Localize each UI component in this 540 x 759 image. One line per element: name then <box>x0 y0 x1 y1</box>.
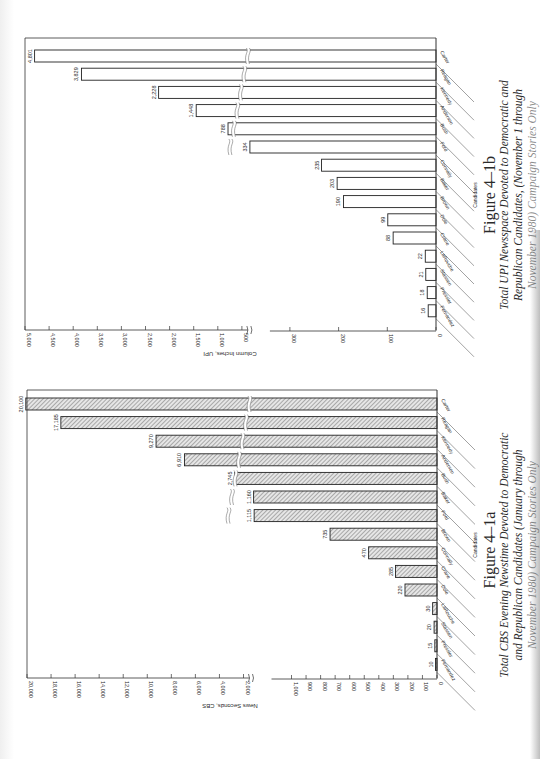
category-axis: CarterReaganKennedyAndersonBushBakerFord… <box>437 398 475 711</box>
data-label: 1,115 <box>246 509 252 522</box>
tick-label: 400 <box>380 682 386 691</box>
category-label: Reagan <box>440 416 454 434</box>
tick-label: 700 <box>336 682 342 691</box>
category-label: Dole <box>439 213 449 225</box>
tick-label: 3,500 <box>98 333 104 347</box>
data-label: 3,829 <box>73 67 79 81</box>
tick-label: 200 <box>340 334 346 343</box>
category-label: Brown <box>440 528 452 543</box>
category-label: Anderson <box>440 453 456 475</box>
figure-caption-line: November 1980) Campaign Stories Only <box>526 100 539 290</box>
category-label: Crane <box>440 565 452 580</box>
tick-label: 1,000 <box>219 333 225 347</box>
tick-label: 4,000 <box>220 681 226 695</box>
bar <box>426 268 436 280</box>
bar <box>81 68 436 80</box>
bar <box>159 86 436 98</box>
data-label: 20,100 <box>18 396 24 413</box>
tick-label: 14,000 <box>100 681 106 698</box>
bar <box>425 250 436 262</box>
bar <box>235 472 437 484</box>
data-label: 99 <box>380 217 386 223</box>
category-label: Bush <box>439 122 450 135</box>
bar <box>396 565 437 577</box>
tick-label: 500 <box>365 682 371 691</box>
tick-label: 18,000 <box>52 681 58 698</box>
bar <box>35 50 436 62</box>
tick-label: 300 <box>291 334 297 343</box>
data-label: 203 <box>329 179 335 188</box>
data-label: 2,745 <box>227 472 233 486</box>
data-label: 220 <box>397 585 403 594</box>
tick-label: 12,000 <box>124 681 130 698</box>
data-label: 9,270 <box>148 434 154 448</box>
tick-label: 2,000 <box>245 681 251 695</box>
category-label: Crane <box>439 232 451 247</box>
category-label: Baker <box>439 177 451 192</box>
data-label: 6,910 <box>176 453 182 467</box>
bar <box>405 584 437 596</box>
bar <box>343 196 436 208</box>
data-label: 21 <box>418 271 424 277</box>
tick-label: 100 <box>423 682 429 691</box>
bar <box>254 491 437 503</box>
bar <box>428 305 436 317</box>
tick-label: 4,500 <box>50 333 56 347</box>
tick-label: 200 <box>409 682 415 691</box>
figure-caption-line: Republican Candidates, (November 1 throu… <box>512 89 525 302</box>
page-figures: 4,8013,8292,2281,44878833423520319099882… <box>0 0 540 759</box>
category-label: Bush <box>440 472 451 485</box>
category-label: Anderson <box>439 104 455 126</box>
bar <box>26 398 437 410</box>
tick-label: 1,000 <box>293 682 299 696</box>
category-label: Reagan <box>439 68 453 86</box>
bar <box>61 417 437 429</box>
data-label: 15 <box>427 643 433 649</box>
category-label: Connally <box>439 159 454 179</box>
tick-label: 2,000 <box>171 333 177 347</box>
category-label: Carter <box>439 50 451 65</box>
category-label: Kennedy <box>439 86 454 107</box>
bar <box>433 603 437 615</box>
category-label: Pressler <box>439 286 454 305</box>
tick-label: 20,000 <box>28 681 34 698</box>
tick-label: 500 <box>243 333 249 342</box>
tick-label: 6,000 <box>196 681 202 695</box>
bar <box>250 141 436 153</box>
tick-label: 10,000 <box>148 681 154 698</box>
figure-number: Figure 4–1a <box>481 512 499 589</box>
data-label: 16 <box>420 308 426 314</box>
tick-label: 5,000 <box>26 333 32 347</box>
figure-caption-line: November 1980) Campaign Stories Only <box>526 460 539 650</box>
tick-label: 8,000 <box>172 681 178 695</box>
tick-label: 1,500 <box>195 333 201 347</box>
bar <box>369 547 437 559</box>
bar <box>184 454 437 466</box>
category-axis-label: Candidates <box>472 182 478 208</box>
data-label: 20 <box>426 624 432 630</box>
bars: 20,10017,1859,2706,9102,7451,1601,115735… <box>18 396 437 671</box>
data-label: 17,185 <box>53 414 59 431</box>
tick-label: 0 <box>437 334 443 337</box>
data-label: 235 <box>314 161 320 170</box>
figure-4-1b: 4,8013,8292,2281,44878833423520319099882… <box>25 38 539 357</box>
category-label: Baker <box>440 491 452 506</box>
figure-caption-line: Total CBS Evening Newstime Devoted to De… <box>498 433 511 678</box>
category-label: Pressler <box>440 639 455 658</box>
figure-4-1a: 20,10017,1859,2706,9102,7451,1601,115735… <box>18 390 539 710</box>
bar <box>427 287 436 299</box>
tick-label: 2,500 <box>147 333 153 347</box>
bar <box>330 528 437 540</box>
data-label: 735 <box>322 530 328 539</box>
data-label: 18 <box>419 290 425 296</box>
figure-caption-line: and Republican Candidates (January throu… <box>512 449 525 660</box>
category-label: Ford <box>440 509 450 521</box>
bar <box>388 214 436 226</box>
data-label: 470 <box>361 548 367 557</box>
tick-label: 16,000 <box>76 681 82 698</box>
category-label: Brown <box>439 195 451 210</box>
data-label: 88 <box>385 235 391 241</box>
data-label: 190 <box>335 197 341 206</box>
bar <box>228 123 436 135</box>
data-label: 4,801 <box>27 49 33 63</box>
